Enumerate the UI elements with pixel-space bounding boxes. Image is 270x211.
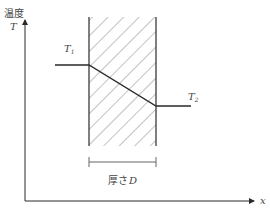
wall-hatched bbox=[89, 17, 156, 146]
thickness-label: 厚さD bbox=[108, 175, 137, 186]
heat-conduction-diagram: 温度 T T1 T2 厚さD x bbox=[0, 0, 270, 211]
t2-label: T2 bbox=[188, 91, 199, 103]
x-axis-label: x bbox=[260, 195, 266, 206]
t1-label: T1 bbox=[64, 43, 75, 55]
y-axis-label-temp: 温度 bbox=[4, 7, 24, 19]
y-axis-label-T: T bbox=[10, 21, 18, 32]
